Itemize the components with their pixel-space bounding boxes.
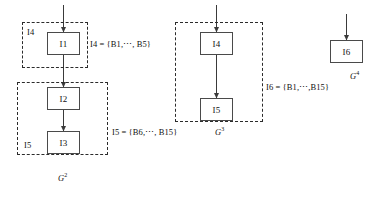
node-i2[interactable]: I2 bbox=[47, 87, 80, 110]
node-i6-label: I6 bbox=[343, 47, 351, 57]
node-i5[interactable]: I5 bbox=[200, 98, 233, 121]
set-label-i4: I4 = {B1,⋯, B5} bbox=[90, 39, 151, 49]
node-i1[interactable]: I1 bbox=[47, 32, 80, 55]
node-i3[interactable]: I3 bbox=[47, 131, 80, 154]
caption-g2: G2 bbox=[58, 172, 67, 183]
node-i6[interactable]: I6 bbox=[330, 40, 363, 63]
node-i2-label: I2 bbox=[60, 94, 68, 104]
node-i1-label: I1 bbox=[60, 39, 68, 49]
set-label-i5: I5 = {B6,⋯, B15} bbox=[112, 127, 177, 137]
caption-g3: G3 bbox=[215, 126, 224, 137]
inner-label-i5: I5 bbox=[24, 140, 31, 150]
set-label-i6: I6 = {B1,⋯,B15} bbox=[266, 82, 329, 92]
node-i4[interactable]: I4 bbox=[200, 32, 233, 55]
inner-label-i4: I4 bbox=[27, 27, 34, 37]
caption-g4: G4 bbox=[350, 70, 359, 81]
caption-g2-superscript: 2 bbox=[64, 172, 67, 178]
node-i5-label: I5 bbox=[213, 105, 221, 115]
node-i4-label: I4 bbox=[213, 39, 221, 49]
node-i3-label: I3 bbox=[60, 138, 68, 148]
diagram-canvas: I1I2I3I4I5I6 I4I5I4 = {B1,⋯, B5}I5 = {B6… bbox=[0, 0, 372, 198]
caption-g4-superscript: 4 bbox=[356, 70, 359, 76]
caption-g3-superscript: 3 bbox=[221, 126, 224, 132]
